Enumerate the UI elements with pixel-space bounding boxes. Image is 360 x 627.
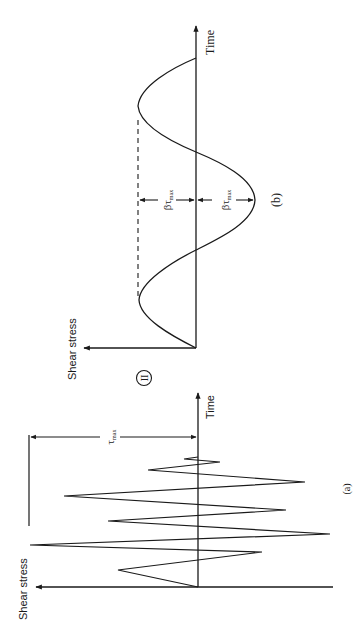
panel-a-stress-history <box>30 457 330 587</box>
panel-b-upper-amplitude-label: βτmax <box>161 190 174 210</box>
panel-a-shear-stress-label: Shear stress <box>17 558 29 620</box>
panel-separator: II <box>137 371 152 386</box>
panel-a-caption: (a) <box>341 483 353 494</box>
panel-a: τmax Time Shear stress (a) <box>17 393 353 620</box>
panel-b-caption: (b) <box>269 193 283 207</box>
separator-symbol: II <box>139 375 150 382</box>
panel-a-tau-max-label: τmax <box>104 430 117 445</box>
panel-a-time-label: Time <box>204 395 216 419</box>
panel-b-shear-stress-label: Shear stress <box>66 318 78 380</box>
figure-canvas: βτmax βτmax Time Shear stress (b) II τma… <box>0 0 360 627</box>
panel-b-time-label: Time <box>203 30 217 55</box>
panel-b-lower-amplitude-label: βτmax <box>219 190 232 210</box>
panel-b: βτmax βτmax Time Shear stress (b) <box>66 26 283 380</box>
